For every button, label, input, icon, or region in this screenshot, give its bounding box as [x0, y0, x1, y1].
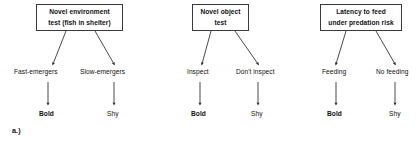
test-box-novel-environment-line2: test (fish in shelter): [48, 18, 111, 28]
branch-label-slow-emergers: Slow-emergers: [80, 69, 125, 76]
branch-label-fast-emergers: Fast-emergers: [14, 69, 58, 76]
test-box-novel-object-line2: test: [200, 18, 240, 28]
branch-label-inspect: Inspect: [187, 69, 209, 76]
test-box-latency-to-feed-line2: under predation risk: [328, 18, 393, 28]
test-box-novel-environment: Novel environment test (fish in shelter): [36, 4, 123, 31]
test-box-novel-object: Novel object test: [192, 4, 249, 31]
test-box-novel-object-line1: Novel object: [200, 7, 240, 17]
arrow-novel-environment-right: [95, 31, 114, 64]
test-box-latency-to-feed-line1: Latency to feed: [328, 7, 393, 17]
outcome-label-novel-object-shy: Shy: [251, 111, 263, 118]
outcome-label-novel-object-bold: Bold: [191, 111, 206, 118]
arrow-novel-environment-left: [53, 31, 66, 64]
outcome-label-latency-shy: Shy: [389, 111, 401, 118]
arrow-novel-object-right: [235, 31, 258, 64]
behavioural-assay-diagram: Novel environment test (fish in shelter)…: [0, 0, 420, 149]
outcome-label-latency-bold: Bold: [327, 111, 342, 118]
figure-panel-caption: a.): [12, 126, 21, 135]
branch-label-feeding: Feeding: [322, 69, 346, 76]
arrow-novel-object-left: [202, 31, 211, 64]
arrow-latency-right: [376, 31, 395, 64]
test-box-novel-environment-line1: Novel environment: [48, 7, 111, 17]
test-box-latency-to-feed: Latency to feed under predation risk: [320, 4, 402, 31]
outcome-label-novel-environment-bold: Bold: [39, 111, 54, 118]
arrow-latency-left: [336, 31, 346, 64]
branch-label-no-feeding: No feeding: [376, 69, 408, 76]
outcome-label-novel-environment-shy: Shy: [107, 111, 119, 118]
branch-label-dont-inspect: Don't inspect: [236, 69, 275, 76]
